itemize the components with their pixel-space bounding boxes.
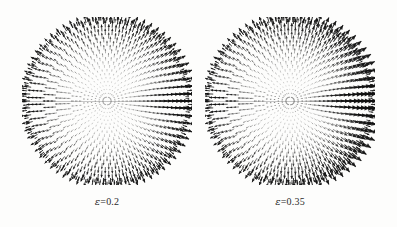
epsilon-value-right: 0.35 [287, 196, 305, 207]
vector-field-plot-right [205, 17, 375, 185]
panel-right-label: ε=0.35 [205, 196, 375, 207]
panel-left [22, 17, 192, 185]
epsilon-value-left: 0.2 [106, 196, 119, 207]
vector-field-plot-left [22, 17, 192, 185]
panel-right [205, 17, 375, 185]
figure-container: ε=0.2 ε=0.35 [0, 0, 397, 227]
panel-left-label: ε=0.2 [22, 196, 192, 207]
